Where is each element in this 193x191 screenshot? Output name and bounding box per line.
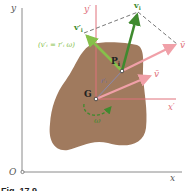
x-axis-label: x — [170, 173, 175, 183]
r-prime-label: r′ᵢ — [101, 77, 108, 85]
v-i-label: vi — [133, 0, 141, 11]
v-prime-i-label: v′i — [73, 22, 83, 33]
v-prime-equation-label: (v′ᵢ = r′ᵢ ω) — [38, 41, 75, 49]
dashed-line-left — [84, 12, 138, 33]
y-prime-label: y′ — [83, 4, 91, 14]
x-prime-label: x′ — [168, 102, 175, 112]
y-axis-label: y — [10, 3, 17, 13]
rigid-body-kinematics-diagram: y x O y′ x′ G Pi vi v′i (v′ᵢ = r′ᵢ ω) r′… — [0, 0, 193, 191]
v-bar-top-label: v̄ — [180, 40, 185, 50]
v-bar-mid-label: v̄ — [154, 69, 159, 79]
origin-label: O — [9, 167, 17, 177]
point-P-i — [120, 69, 124, 73]
point-G — [94, 97, 98, 101]
omega-label: ω — [94, 116, 101, 125]
origin-point — [21, 170, 24, 173]
dashed-line-right — [138, 12, 177, 44]
G-label: G — [84, 89, 92, 99]
figure-caption: Fig. 17.9 — [1, 186, 37, 191]
